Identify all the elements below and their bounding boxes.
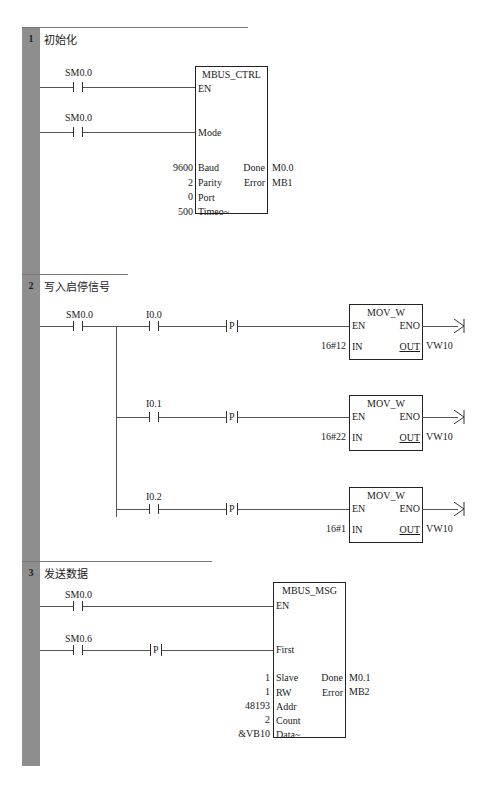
network-1-number: 1	[22, 33, 40, 44]
pin-out: OUT	[399, 432, 420, 443]
pin-timeout: Timeo~	[198, 206, 229, 217]
pin-slave: Slave	[276, 672, 298, 683]
positive-edge-trigger[interactable]: P	[226, 411, 238, 423]
next-arrow-icon	[454, 319, 466, 333]
network-1-title[interactable]: 初始化	[44, 31, 77, 47]
out-value[interactable]: VW10	[426, 340, 453, 351]
network-2-separator	[22, 274, 128, 275]
normally-open-contact[interactable]	[73, 127, 83, 137]
pin-en: EN	[198, 83, 211, 94]
data-value[interactable]: &VB10	[238, 728, 270, 739]
pin-en: EN	[276, 600, 289, 611]
network-2-number: 2	[22, 280, 40, 291]
mbus-ctrl-block[interactable]: MBUS_CTRL EN Mode Baud Parity Port Timeo…	[195, 66, 268, 214]
positive-edge-trigger[interactable]: P	[150, 644, 162, 656]
pin-out: OUT	[399, 341, 420, 352]
mov-w-block[interactable]: MOV_W EN ENO IN OUT	[349, 304, 423, 360]
pin-data: Data~	[276, 729, 300, 740]
pin-count: Count	[276, 715, 300, 726]
contact-label: SM0.0	[65, 112, 92, 123]
pin-error: Error	[322, 687, 343, 698]
block-name: MOV_W	[350, 398, 422, 409]
contact-label: SM0.0	[66, 309, 93, 320]
next-arrow-icon	[454, 410, 466, 424]
normally-open-contact[interactable]	[149, 504, 159, 514]
mov-w-block[interactable]: MOV_W EN ENO IN OUT	[349, 487, 423, 543]
normally-open-contact[interactable]	[73, 321, 83, 331]
network-3-title[interactable]: 发送数据	[44, 565, 88, 581]
block-name: MOV_W	[350, 307, 422, 318]
pin-first: First	[276, 644, 294, 655]
network-3-separator	[22, 561, 212, 562]
wire	[40, 132, 196, 133]
left-power-rail	[22, 28, 40, 766]
network-2-title[interactable]: 写入启停信号	[44, 278, 110, 294]
normally-open-contact[interactable]	[149, 321, 159, 331]
network-3-number: 3	[22, 567, 40, 578]
done-output-value[interactable]: M0.0	[272, 162, 293, 173]
pin-mode: Mode	[198, 127, 221, 138]
block-name: MBUS_MSG	[274, 585, 345, 596]
port-value[interactable]: 0	[188, 191, 193, 202]
rw-value[interactable]: 1	[265, 686, 270, 697]
in-value[interactable]: 16#1	[326, 523, 346, 534]
eno-wire	[422, 326, 458, 327]
pin-out: OUT	[399, 524, 420, 535]
pin-done: Done	[321, 672, 343, 683]
positive-edge-trigger[interactable]: P	[226, 320, 238, 332]
pin-en: EN	[352, 411, 365, 422]
normally-open-contact[interactable]	[149, 412, 159, 422]
pin-error: Error	[244, 177, 265, 188]
next-arrow-icon	[454, 502, 466, 516]
block-name: MBUS_CTRL	[196, 69, 267, 80]
network-1-separator	[22, 27, 248, 28]
error-output-value[interactable]: MB1	[272, 177, 293, 188]
wire	[40, 87, 196, 88]
eno-wire	[422, 509, 458, 510]
contact-label: I0.0	[146, 309, 162, 320]
pin-in: IN	[352, 432, 363, 443]
in-value[interactable]: 16#22	[321, 431, 346, 442]
in-value[interactable]: 16#12	[321, 340, 346, 351]
pin-in: IN	[352, 524, 363, 535]
contact-label: I0.2	[146, 491, 162, 502]
pin-addr: Addr	[276, 701, 297, 712]
error-output-value[interactable]: MB2	[349, 686, 370, 697]
positive-edge-trigger[interactable]: P	[226, 503, 238, 515]
out-value[interactable]: VW10	[426, 523, 453, 534]
normally-open-contact[interactable]	[73, 82, 83, 92]
mbus-msg-block[interactable]: MBUS_MSG EN First Slave RW Addr Count Da…	[273, 582, 346, 738]
addr-value[interactable]: 48193	[245, 700, 270, 711]
contact-label: SM0.6	[65, 633, 92, 644]
done-output-value[interactable]: M0.1	[349, 672, 370, 683]
pin-baud: Baud	[198, 162, 219, 173]
baud-value[interactable]: 9600	[173, 162, 193, 173]
pin-port: Port	[198, 192, 215, 203]
pin-done: Done	[243, 162, 265, 173]
eno-wire	[422, 417, 458, 418]
contact-label: SM0.0	[65, 589, 92, 600]
block-name: MOV_W	[350, 490, 422, 501]
out-value[interactable]: VW10	[426, 431, 453, 442]
pin-en: EN	[352, 320, 365, 331]
normally-open-contact[interactable]	[73, 645, 83, 655]
pin-in: IN	[352, 341, 363, 352]
pin-eno: ENO	[399, 411, 420, 422]
slave-value[interactable]: 1	[265, 672, 270, 683]
mov-w-block[interactable]: MOV_W EN ENO IN OUT	[349, 395, 423, 451]
parity-value[interactable]: 2	[188, 177, 193, 188]
pin-en: EN	[352, 503, 365, 514]
pin-parity: Parity	[198, 177, 222, 188]
normally-open-contact[interactable]	[73, 601, 83, 611]
pin-rw: RW	[276, 687, 292, 698]
pin-eno: ENO	[399, 503, 420, 514]
count-value[interactable]: 2	[265, 714, 270, 725]
contact-label: I0.1	[146, 398, 162, 409]
branch-wire	[116, 326, 117, 517]
timeout-value[interactable]: 500	[178, 206, 193, 217]
pin-eno: ENO	[399, 320, 420, 331]
contact-label: SM0.0	[65, 67, 92, 78]
